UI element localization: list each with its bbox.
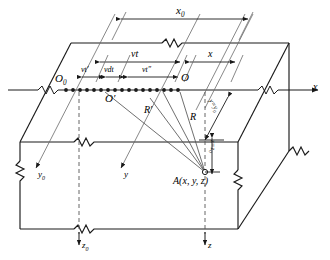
dimension-tick-slants	[96, 55, 243, 82]
label-x0: x0	[176, 5, 185, 19]
ruling-y	[121, 14, 200, 168]
label-point-A: A(x, y, z)	[173, 176, 208, 186]
slab-box	[16, 39, 309, 233]
rays	[105, 92, 205, 172]
label-vt-prime: vt′	[81, 66, 89, 74]
label-axis-y: y	[124, 170, 128, 179]
label-origin-O: O	[181, 72, 189, 83]
top-right-slant	[238, 43, 289, 142]
z-dashed-axes	[79, 92, 205, 234]
diagram-vector-graphics	[0, 0, 330, 260]
label-axis-x: x	[313, 82, 317, 92]
label-R-prime: R′	[144, 105, 152, 115]
label-origin-O0: O0	[55, 73, 67, 87]
source-point-dots	[64, 88, 180, 92]
label-origin-O-prime: O′	[105, 93, 115, 104]
label-axis-z: z	[208, 241, 212, 250]
label-z-equals-z0: z=z0	[207, 140, 216, 152]
label-R: R	[190, 112, 196, 122]
label-vdt: vdt	[104, 66, 114, 74]
label-axis-y0: y0	[38, 170, 45, 182]
label-axis-z0: z0	[82, 241, 88, 253]
label-x: x	[208, 49, 212, 59]
z-axis-arrows	[79, 232, 205, 245]
ray-R-prime	[105, 92, 205, 172]
label-vt-double-prime: vt″	[142, 66, 151, 74]
label-vt: vt	[131, 49, 138, 59]
figure-canvas: x0 vt x vt′ vdt vt″ O0 O′ O x R′ R y=y0 …	[0, 0, 330, 260]
